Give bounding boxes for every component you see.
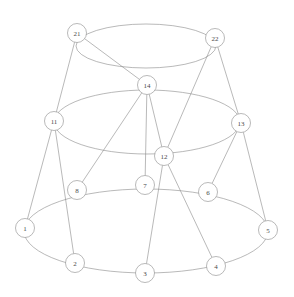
node-4[interactable]: 4 xyxy=(207,257,226,276)
ring-top-ring xyxy=(76,24,216,68)
edges-group xyxy=(27,39,265,264)
node-5[interactable]: 5 xyxy=(259,221,278,240)
node-circle-1[interactable] xyxy=(16,219,35,238)
node-7[interactable]: 7 xyxy=(136,176,155,195)
edge-14-8 xyxy=(82,93,141,182)
node-circle-3[interactable] xyxy=(136,264,155,283)
node-3[interactable]: 3 xyxy=(136,264,155,283)
nodes-group: 12345678111213142122 xyxy=(16,24,278,283)
edge-14-12 xyxy=(149,94,162,147)
edge-11-1 xyxy=(27,130,51,219)
ring-bottom-ring xyxy=(24,189,268,273)
edge-21-14 xyxy=(85,39,140,80)
node-6[interactable]: 6 xyxy=(199,183,218,202)
node-21[interactable]: 21 xyxy=(68,24,87,43)
node-circle-4[interactable] xyxy=(207,257,226,276)
node-circle-22[interactable] xyxy=(206,29,225,48)
node-1[interactable]: 1 xyxy=(16,219,35,238)
node-circle-5[interactable] xyxy=(259,221,278,240)
node-circle-6[interactable] xyxy=(199,183,218,202)
edge-12-4 xyxy=(168,165,212,258)
node-8[interactable]: 8 xyxy=(68,181,87,200)
node-circle-11[interactable] xyxy=(45,112,64,131)
node-circle-2[interactable] xyxy=(66,254,85,273)
node-11[interactable]: 11 xyxy=(45,112,64,131)
node-14[interactable]: 14 xyxy=(138,76,157,95)
edge-21-11 xyxy=(56,42,74,112)
graph-svg-root: 12345678111213142122 xyxy=(0,0,294,297)
node-circle-7[interactable] xyxy=(136,176,155,195)
node-22[interactable]: 22 xyxy=(206,29,225,48)
edge-13-6 xyxy=(212,132,237,184)
edge-14-7 xyxy=(145,94,147,175)
node-2[interactable]: 2 xyxy=(66,254,85,273)
node-12[interactable]: 12 xyxy=(155,147,174,166)
node-circle-8[interactable] xyxy=(68,181,87,200)
node-circle-21[interactable] xyxy=(68,24,87,43)
node-circle-14[interactable] xyxy=(138,76,157,95)
edge-22-13 xyxy=(218,47,238,114)
node-circle-13[interactable] xyxy=(232,114,251,133)
node-circle-12[interactable] xyxy=(155,147,174,166)
graph-diagram-canvas: 12345678111213142122 xyxy=(0,0,294,297)
node-13[interactable]: 13 xyxy=(232,114,251,133)
